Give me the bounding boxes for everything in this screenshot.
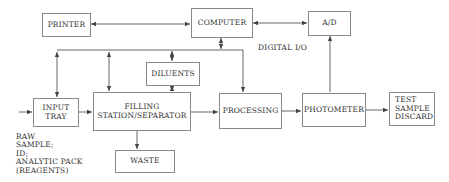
diluents-label: DILUENTS <box>151 70 195 79</box>
discard-label: TEST SAMPLE DISCARD <box>395 96 433 122</box>
ad-converter-block: A/D <box>308 11 351 36</box>
printer-label: PRINTER <box>48 21 86 30</box>
system-block-diagram: PRINTER COMPUTER A/D DIGITAL I/O DILUENT… <box>0 0 449 182</box>
waste-label: WASTE <box>130 157 159 166</box>
computer-block: COMPUTER <box>191 8 253 38</box>
input-tray-label: INPUT TRAY <box>43 104 70 121</box>
filling-station-separator-block: FILLING STATION/SEPARATOR <box>93 92 191 131</box>
printer-block: PRINTER <box>42 13 91 37</box>
waste-block: WASTE <box>115 150 175 173</box>
processing-label: PROCESSING <box>223 107 279 116</box>
diluents-block: DILUENTS <box>146 62 200 86</box>
raw-sample-input-label: RAW SAMPLE; ID; ANALYTIC PACK (REAGENTS) <box>16 133 83 175</box>
computer-label: COMPUTER <box>198 19 247 28</box>
filling-label: FILLING STATION/SEPARATOR <box>97 103 186 120</box>
input-tray-block: INPUT TRAY <box>33 98 79 127</box>
digital-io-label: DIGITAL I/O <box>258 44 307 52</box>
photometer-block: PHOTOMETER <box>302 93 366 127</box>
processing-block: PROCESSING <box>219 93 282 129</box>
photometer-label: PHOTOMETER <box>304 106 364 115</box>
ad-label: A/D <box>322 19 337 28</box>
test-sample-discard-block: TEST SAMPLE DISCARD <box>389 92 435 126</box>
